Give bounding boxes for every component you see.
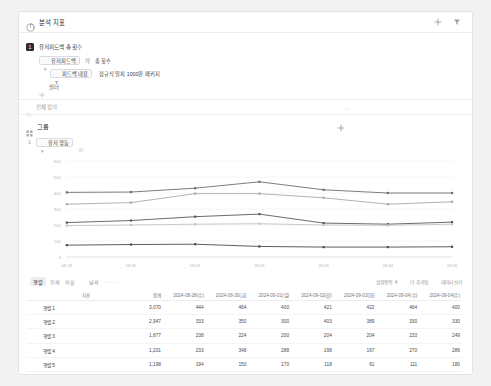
gear-icon[interactable] bbox=[78, 139, 84, 145]
table-col-index[interactable] bbox=[27, 289, 49, 301]
row-value-4: 389 bbox=[334, 315, 377, 329]
funnel-icon[interactable] bbox=[451, 17, 462, 28]
table-option-ratio[interactable]: 비율 bbox=[65, 278, 75, 285]
row-value-0: 444 bbox=[163, 301, 206, 315]
data-point bbox=[194, 216, 196, 218]
data-point bbox=[66, 244, 68, 246]
row-label: 행렬 2 bbox=[27, 315, 49, 329]
event-filter-chip[interactable]: 피드백 내용 bbox=[50, 69, 92, 78]
row-label: 행렬 3 bbox=[27, 329, 49, 343]
add-filter-row[interactable]: 필터 bbox=[39, 80, 462, 93]
table-col-date-5[interactable]: 2024-09-04(수) bbox=[377, 289, 420, 301]
line-chart[interactable]: 0100200300400500600 08-2808-3009-0109-02… bbox=[27, 155, 460, 273]
data-point bbox=[66, 191, 68, 193]
data-point bbox=[451, 192, 453, 194]
table-header-row: 지표합계2024-08-28(수)2024-08-30(금)2024-09-01… bbox=[27, 289, 462, 301]
table-col-date-6[interactable]: 2024-09-04(수) bbox=[419, 289, 462, 301]
table-col-date-3[interactable]: 2024-09-02(월) bbox=[291, 289, 334, 301]
event-header-row[interactable]: 1 유저피드백 총 횟수 bbox=[26, 39, 462, 54]
group-item: 1 유저 행동 bbox=[19, 135, 472, 149]
x-tick-label: 09-02 bbox=[254, 263, 265, 268]
row-value-6: 330 bbox=[419, 315, 462, 329]
table-row[interactable]: 행렬 41,201233348288198167270289 bbox=[27, 343, 462, 357]
row-value-1: 348 bbox=[206, 343, 249, 357]
row-metric bbox=[49, 343, 123, 357]
table-col-date-1[interactable]: 2024-08-30(금) bbox=[206, 289, 249, 301]
table-head: 지표합계2024-08-28(수)2024-08-30(금)2024-09-01… bbox=[27, 289, 462, 301]
row-value-6: 249 bbox=[419, 329, 462, 343]
chevron-down-icon[interactable] bbox=[344, 98, 350, 116]
row-value-2: 300 bbox=[248, 315, 291, 329]
data-point bbox=[130, 243, 132, 245]
data-point bbox=[323, 189, 325, 191]
series-path bbox=[67, 182, 452, 193]
table-col-date-0[interactable]: 2024-08-28(수) bbox=[163, 289, 206, 301]
data-point bbox=[66, 222, 68, 224]
row-value-5: 233 bbox=[377, 329, 420, 343]
chart-series-group bbox=[66, 181, 453, 248]
table-col-date-4[interactable]: 2024-09-03(화) bbox=[334, 289, 377, 301]
data-point bbox=[387, 246, 389, 248]
y-tick-label: 100 bbox=[54, 239, 62, 244]
group-item-chip[interactable]: 유저 행동 bbox=[36, 138, 73, 147]
event-property-chip[interactable]: 유저피드백 bbox=[39, 56, 80, 65]
chart-x-axis-labels: 08-2808-3009-0109-0209-0309-0409-05 bbox=[62, 263, 458, 268]
page-title: 분석 지표 bbox=[39, 18, 65, 27]
group-item-number: 1 bbox=[28, 139, 36, 145]
y-tick-label: 500 bbox=[54, 175, 62, 180]
data-point bbox=[66, 225, 68, 227]
row-value-4: 167 bbox=[334, 343, 377, 357]
table-option-date[interactable]: 날짜 bbox=[89, 278, 99, 285]
group-title: 그룹 bbox=[37, 122, 49, 131]
row-metric bbox=[49, 357, 123, 371]
chart-y-axis-labels: 0100200300400500600 bbox=[54, 159, 62, 260]
table-col-metric[interactable]: 지표 bbox=[49, 289, 123, 301]
grid-icon bbox=[26, 123, 33, 130]
toolbar-top-items[interactable]: 상위항목: 4 bbox=[376, 278, 397, 285]
row-label: 행렬 1 bbox=[27, 301, 49, 315]
filter-icon bbox=[54, 71, 59, 76]
chart-line-행렬-2[interactable] bbox=[66, 193, 453, 206]
row-total: 2,947 bbox=[123, 315, 163, 329]
table-row[interactable]: 행렬 31,877238224200204204233249 bbox=[27, 329, 462, 343]
toolbar-more-added[interactable]: 더 추가됨 bbox=[410, 278, 427, 285]
data-point bbox=[194, 193, 196, 195]
chart-line-행렬-5[interactable] bbox=[66, 243, 453, 248]
data-point bbox=[451, 223, 453, 225]
table-toolbar: 행렬 전체 비율 날짜 · · · · · 상위항목: 4 더 추가됨 데이터 … bbox=[19, 275, 472, 288]
table-option-all[interactable]: 전체 bbox=[50, 278, 60, 285]
row-value-3: 118 bbox=[291, 357, 334, 371]
table-row[interactable]: 행렬 22,947333350300403389330330 bbox=[27, 315, 462, 329]
table-row[interactable]: 행렬 13,070444464400421422464400 bbox=[27, 301, 462, 315]
add-metric-button[interactable] bbox=[432, 17, 443, 28]
row-value-2: 200 bbox=[248, 329, 291, 343]
definition-label: 전체 정의 bbox=[36, 103, 58, 111]
table-tab-matrix[interactable]: 행렬 bbox=[30, 277, 46, 286]
event-badge: 1 bbox=[26, 43, 34, 51]
row-value-5: 111 bbox=[377, 357, 420, 371]
data-point bbox=[451, 201, 453, 203]
event-filter-value[interactable]: 정규식 일치 1000원 패키지 bbox=[99, 70, 160, 77]
x-tick-label: 08-30 bbox=[126, 263, 137, 268]
row-value-5: 330 bbox=[377, 315, 420, 329]
series-path bbox=[67, 194, 452, 205]
event-property-row: 유저피드백 의 총 횟수 bbox=[39, 54, 462, 67]
definition-row[interactable]: 전체 정의 bbox=[19, 99, 472, 115]
table-col-date-2[interactable]: 2024-09-01(일) bbox=[248, 289, 291, 301]
table-option-dots[interactable]: · · · · · bbox=[104, 279, 118, 285]
data-point bbox=[130, 219, 132, 221]
row-metric bbox=[49, 315, 123, 329]
toolbar-view-data[interactable]: 데이터 보기 bbox=[441, 278, 462, 285]
add-group-button[interactable] bbox=[337, 118, 345, 136]
row-label: 행렬 5 bbox=[27, 357, 49, 371]
table-row[interactable]: 행렬 51,19819415017011861111180 bbox=[27, 357, 462, 371]
x-tick-label: 09-01 bbox=[190, 263, 201, 268]
event-metric[interactable]: 총 횟수 bbox=[95, 57, 111, 64]
data-point bbox=[387, 224, 389, 226]
data-point bbox=[451, 246, 453, 248]
table-col-total[interactable]: 합계 bbox=[123, 289, 163, 301]
chart-line-행렬-1[interactable] bbox=[66, 181, 453, 194]
toolbar-right-group: 상위항목: 4 더 추가됨 데이터 보기 bbox=[363, 278, 462, 285]
row-value-2: 170 bbox=[248, 357, 291, 371]
event-title: 유저피드백 총 횟수 bbox=[39, 43, 82, 51]
